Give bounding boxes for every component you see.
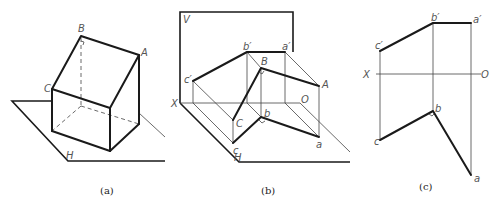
label-A: A — [321, 79, 329, 90]
label-B: B — [261, 56, 268, 67]
label-b: b — [435, 103, 441, 114]
label-X: X — [362, 69, 371, 80]
label-O: O — [481, 69, 489, 80]
v-projection-cba — [380, 23, 471, 51]
label-b: b — [264, 108, 270, 119]
h-plane-outline — [12, 101, 165, 161]
label-c: c — [374, 136, 380, 147]
label-C: C — [236, 118, 243, 129]
label-a: a — [316, 139, 322, 150]
proj-b-line — [247, 52, 261, 68]
bottom-edge-left — [52, 131, 110, 151]
panel-c: b′ a′ c′ X O b c a (c) — [362, 12, 489, 192]
label-C: C — [44, 83, 51, 94]
inclined-top-face — [52, 36, 139, 108]
label-b-prime: b′ — [431, 12, 440, 23]
caption-c: (c) — [419, 181, 433, 192]
label-b-prime: b′ — [243, 41, 252, 52]
v-projection-cba — [193, 52, 285, 81]
panel-a: B A C H (a) — [12, 23, 165, 196]
label-c-prime: c′ — [375, 40, 383, 51]
label-A: A — [140, 47, 148, 58]
right-angle-mark-b — [429, 114, 434, 116]
label-O: O — [301, 94, 309, 105]
right-angle-mark-b — [259, 120, 265, 123]
h-projection-cba — [380, 111, 471, 175]
label-a: a — [474, 173, 480, 184]
label-H: H — [66, 150, 74, 161]
hidden-edge-left — [52, 106, 81, 131]
proj-b-ground — [247, 103, 261, 117]
label-a-prime: a′ — [282, 41, 291, 52]
caption-a: (a) — [100, 185, 114, 196]
label-c: c — [233, 145, 239, 156]
h-plane-right-edge — [139, 113, 165, 137]
proj-c-line — [193, 81, 233, 120]
caption-b: (b) — [261, 185, 275, 196]
bottom-edge-right — [110, 124, 139, 151]
orthographic-projection-figure: B A C H (a) V X O — [0, 0, 493, 204]
h-projection-cba — [233, 117, 319, 143]
label-B: B — [78, 23, 85, 34]
label-V: V — [183, 14, 191, 25]
panel-b: V X O H b′ a′ c′ B A C b a c (b) — [170, 12, 350, 196]
label-a-prime: a′ — [473, 14, 482, 25]
h-plane-right-edge — [300, 103, 350, 152]
label-X: X — [170, 98, 179, 109]
right-angle-mark — [81, 41, 84, 45]
label-c-prime: c′ — [184, 74, 192, 85]
